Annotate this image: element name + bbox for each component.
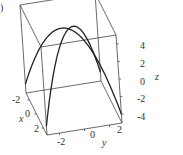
box-edge <box>20 5 41 47</box>
bounding-box <box>20 0 122 135</box>
plot-3d: ) 4 2 0 -2 -4 z -2 0 2 x -2 0 2 y <box>0 0 183 155</box>
box-edge <box>95 0 101 81</box>
z-tick-label: 4 <box>140 40 145 51</box>
z-tick-labels: 4 2 0 -2 -4 <box>137 40 145 122</box>
z-axis-label: z <box>154 71 159 82</box>
y-tick-label: 0 <box>90 129 95 140</box>
box-edge <box>26 81 101 93</box>
x-tick-label: 0 <box>25 108 30 119</box>
y-axis-label: y <box>101 137 107 148</box>
z-tick-label: -2 <box>137 93 145 104</box>
curve-1 <box>25 28 121 114</box>
z-tick-label: -4 <box>137 111 145 122</box>
y-tick-labels: -2 0 2 <box>57 124 122 147</box>
box-edge <box>41 47 47 135</box>
z-tick-label: 2 <box>140 58 145 69</box>
x-axis-label: x <box>18 113 24 124</box>
curves <box>25 26 121 126</box>
panel-label: ) <box>0 2 3 14</box>
y-tick-label: 2 <box>117 124 122 135</box>
box-edge <box>41 35 116 47</box>
box-edge <box>95 0 116 35</box>
x-tick-label: -2 <box>12 94 20 105</box>
box-edge <box>101 81 122 123</box>
curve-2 <box>46 26 100 126</box>
x-tick-label: 2 <box>34 123 39 134</box>
box-edge <box>20 0 95 5</box>
z-tick-label: 0 <box>140 76 145 87</box>
box-edge <box>20 5 26 93</box>
y-tick-label: -2 <box>57 136 65 147</box>
